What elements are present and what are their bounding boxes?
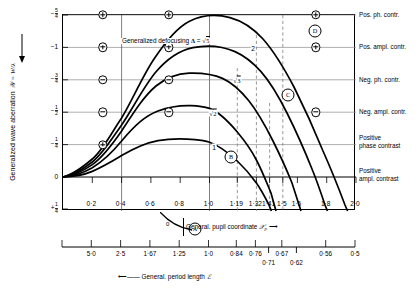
secondary-tick-label: 1·25: [173, 250, 186, 257]
secondary-tick-label: 0·56: [319, 250, 332, 257]
annotation-pos-ampl-contr: Pos. ampl. contr.: [359, 43, 406, 51]
figure-container: Generalized wave aberration 𝒲 = W/λ −54 …: [0, 0, 418, 298]
secondary-tick-label: 0·76: [249, 250, 262, 257]
bottom-axis-title: ⟵—— General. period length ℰ: [118, 274, 211, 280]
bottom-axis-arrow-icon: ⟵——: [118, 273, 140, 280]
secondary-tick-label-offset: 0·71: [262, 259, 275, 266]
secondary-tick-label: 1·67: [143, 250, 156, 257]
secondary-axis-tick-labels: 5·0 2·5 1·67 1·25 1·0 0·84 0·76 0·67 0·5…: [0, 0, 418, 298]
annotation-positive-phase-contrast: Positive phase contrast: [359, 134, 400, 149]
secondary-tick-label-offset: 0·62: [290, 259, 303, 266]
bottom-axis-title-text: General. period length: [142, 273, 205, 280]
annotation-neg-ph-contr: Neg. ph. contr.: [359, 76, 400, 84]
annotation-neg-ampl-contr: Neg. ampl. contr.: [359, 108, 407, 116]
secondary-tick-label: 1·0: [204, 250, 213, 257]
bottom-axis-symbol: ℰ: [207, 273, 211, 280]
secondary-tick-label: 2·5: [116, 250, 125, 257]
secondary-tick-label: 0·67: [275, 250, 288, 257]
right-annotations: Pos. ph. contr. Pos. ampl. contr. Neg. p…: [359, 0, 418, 298]
annotation-positive-ampl-contrast: Positive ampl. contrast: [359, 167, 399, 182]
secondary-tick-label: 5·0: [87, 250, 96, 257]
secondary-tick-label: 0·84: [230, 250, 243, 257]
annotation-pos-ph-contr: Pos. ph. contr.: [359, 11, 399, 19]
